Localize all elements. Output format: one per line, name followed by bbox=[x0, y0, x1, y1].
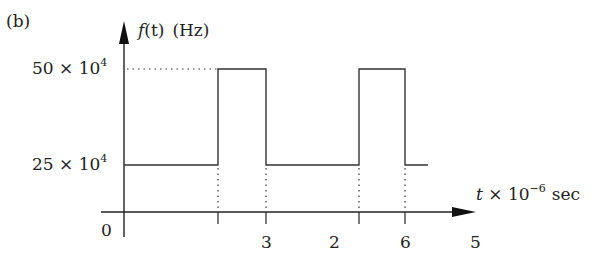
x-tick-label-6: 6 bbox=[400, 232, 411, 252]
y-tick-label-high: 50 × 104 bbox=[32, 56, 107, 78]
x-tick-label-0: 0 bbox=[101, 220, 112, 240]
x-axis-title: t × 10−6sec bbox=[476, 182, 580, 204]
x-tick-label-2: 2 bbox=[329, 232, 340, 252]
x-axis-arrow-icon bbox=[452, 207, 476, 217]
y-axis-arrow-icon bbox=[119, 21, 129, 44]
panel-label: (b) bbox=[6, 11, 30, 31]
x-axis bbox=[101, 207, 476, 224]
frequency-step-chart: (b) f(t)(Hz) 50 × 104 25 × 104 t × 10−6s… bbox=[0, 0, 593, 258]
y-tick-label-low: 25 × 104 bbox=[32, 152, 107, 174]
frequency-signal-line bbox=[124, 69, 428, 165]
y-axis-title: f(t)(Hz) bbox=[136, 20, 209, 40]
x-tick-label-5: 5 bbox=[470, 232, 481, 252]
x-tick-label-3: 3 bbox=[261, 232, 272, 252]
y-axis bbox=[119, 21, 129, 237]
